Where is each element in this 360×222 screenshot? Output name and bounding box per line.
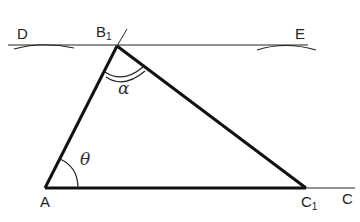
side-b1c1 <box>117 46 306 188</box>
label-d: D <box>17 26 28 41</box>
label-c: C <box>342 191 353 206</box>
label-b1: B1 <box>96 24 112 42</box>
label-alpha: α <box>118 80 129 97</box>
label-b1-sub: 1 <box>106 31 112 42</box>
label-a: A <box>40 194 50 209</box>
angle-alpha-arc-outer <box>105 67 143 77</box>
label-b1-main: B <box>96 23 106 40</box>
arc-mark-e <box>257 46 316 51</box>
label-e: E <box>295 26 305 41</box>
line-b1-extension <box>117 29 127 46</box>
label-c1: C1 <box>301 194 317 212</box>
angle-theta-arc <box>60 159 78 188</box>
label-c1-main: C <box>301 193 312 210</box>
label-c1-sub: 1 <box>312 201 318 212</box>
diagram-canvas <box>0 0 360 222</box>
label-theta: θ <box>80 151 90 168</box>
